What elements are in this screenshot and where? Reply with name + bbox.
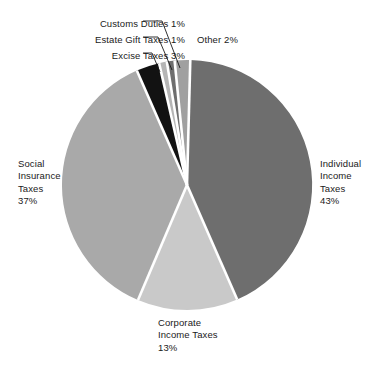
- label-other: Other 2%: [197, 34, 238, 46]
- label-line: Individual: [320, 158, 361, 170]
- label-line: Taxes: [320, 183, 361, 195]
- label-line: Social: [18, 158, 61, 170]
- label-line: Insurance: [18, 170, 61, 182]
- label-value: 37%: [18, 195, 61, 207]
- label-value: 13%: [158, 342, 218, 354]
- label-customs-duties: Customs Duties 1%: [100, 18, 185, 30]
- label-line: Income Taxes: [158, 329, 218, 341]
- label-excise-taxes: Excise Taxes 3%: [112, 50, 185, 62]
- label-estate-gift-taxes: Estate Gift Taxes 1%: [95, 34, 185, 46]
- pie-chart-figure: Customs Duties 1% Estate Gift Taxes 1% E…: [0, 0, 383, 367]
- label-social-insurance-taxes: Social Insurance Taxes 37%: [18, 158, 61, 208]
- label-line: Taxes: [18, 183, 61, 195]
- label-corporate-income-taxes: Corporate Income Taxes 13%: [158, 317, 218, 354]
- label-value: 43%: [320, 195, 361, 207]
- label-line: Corporate: [158, 317, 218, 329]
- label-line: Income: [320, 170, 361, 182]
- label-individual-income-taxes: Individual Income Taxes 43%: [320, 158, 361, 208]
